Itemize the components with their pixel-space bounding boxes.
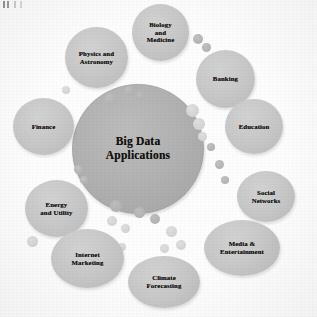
bubble-label-media-and-entertainment: Media & Entertainment (220, 240, 264, 255)
mini-bubble (186, 104, 199, 117)
mini-bubble (221, 176, 229, 184)
mini-bubble (150, 214, 160, 224)
mini-bubble (193, 118, 205, 130)
mini-bubble (166, 226, 177, 237)
mini-bubble (202, 43, 211, 52)
center-bubble-label: Big Data Applications (106, 135, 170, 162)
mini-bubble (134, 207, 145, 218)
mini-bubble (62, 86, 70, 94)
bubble-label-finance: Finance (32, 123, 56, 131)
mini-bubble (74, 165, 83, 174)
bubble-label-climate-forecasting: Climate Forecasting (147, 274, 182, 289)
mini-bubble (198, 132, 207, 141)
mini-bubble (27, 236, 38, 247)
mini-bubble (136, 92, 144, 100)
bubble-diagram-canvas: Big Data Applications Biology and Medici… (0, 0, 317, 317)
bubble-label-social-networks: Social Networks (252, 189, 281, 204)
mini-bubble (215, 160, 224, 169)
bubble-climate-forecasting[interactable]: Climate Forecasting (128, 256, 200, 308)
bubble-label-education: Education (239, 123, 270, 131)
mini-bubble (104, 93, 117, 106)
mini-bubble (207, 143, 215, 151)
bubble-label-banking: Banking (213, 75, 238, 83)
bubble-energy-and-utility[interactable]: Energy and Utility (25, 180, 88, 237)
bubble-label-biology-and-medicine: Biology and Medicine (147, 21, 175, 44)
mini-bubble (160, 244, 169, 253)
bubble-social-networks[interactable]: Social Networks (237, 171, 295, 222)
mini-bubble (121, 224, 130, 233)
bubble-label-energy-and-utility: Energy and Utility (40, 201, 72, 216)
bubble-label-internet-marketing: Internet Marketing (72, 251, 104, 266)
bubble-physics-and-astronomy[interactable]: Physics and Astronomy (65, 27, 128, 88)
bubble-internet-marketing[interactable]: Internet Marketing (51, 229, 124, 288)
bubble-label-physics-and-astronomy: Physics and Astronomy (79, 50, 114, 65)
scan-artifact (3, 1, 29, 8)
mini-bubble (193, 34, 203, 44)
bubble-media-and-entertainment[interactable]: Media & Entertainment (204, 220, 280, 276)
center-bubble-big-data-applications[interactable]: Big Data Applications (72, 84, 204, 214)
mini-bubble (124, 86, 134, 96)
bubble-finance[interactable]: Finance (13, 98, 74, 155)
bubble-biology-and-medicine[interactable]: Biology and Medicine (132, 4, 189, 61)
bubble-education[interactable]: Education (225, 99, 283, 154)
mini-bubble (80, 176, 88, 184)
mini-bubble (107, 216, 117, 226)
mini-bubble (176, 240, 186, 250)
mini-bubble (110, 200, 122, 212)
